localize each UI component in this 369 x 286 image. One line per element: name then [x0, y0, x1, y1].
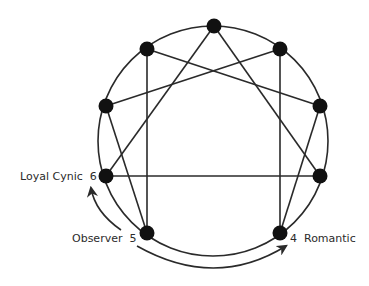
label-loyal-cynic-6: Loyal Cynic 6 — [20, 170, 97, 183]
label-romantic-4: 4 Romantic — [290, 232, 356, 245]
node-1 — [273, 42, 288, 57]
node-6 — [99, 169, 114, 184]
node-7 — [99, 99, 114, 114]
outer-circle — [98, 26, 328, 256]
arrow-5-to-4 — [137, 246, 286, 268]
node-3 — [313, 169, 328, 184]
edge-5-7 — [106, 106, 147, 233]
edge-2-8 — [147, 49, 320, 106]
connection-lines — [106, 26, 320, 233]
node-4 — [273, 226, 288, 241]
node-5 — [140, 226, 155, 241]
edge-4-2 — [280, 106, 320, 233]
edge-7-1 — [106, 49, 280, 106]
label-observer-5: Observer 5 — [72, 232, 136, 245]
arrow-5-to-6 — [91, 188, 121, 230]
node-2 — [313, 99, 328, 114]
nodes — [99, 19, 328, 241]
node-9 — [207, 19, 222, 34]
enneagram-diagram: Loyal Cynic 6 Observer 5 4 Romantic — [0, 0, 369, 286]
node-8 — [140, 42, 155, 57]
